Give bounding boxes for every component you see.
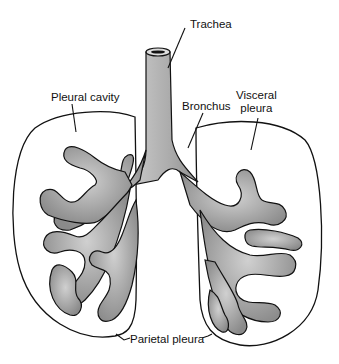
trachea-label: Trachea xyxy=(190,18,232,31)
left-lung-tree xyxy=(40,147,146,322)
pleural-cavity-label: Pleural cavity xyxy=(51,91,119,104)
visceral-pleura-line2: pleura xyxy=(236,102,277,115)
visceral-pleura-label: Visceral pleura xyxy=(236,89,277,115)
trachea-leader xyxy=(168,28,185,68)
lung-diagram xyxy=(0,0,339,364)
visceral-pleura-line1: Visceral xyxy=(236,89,277,102)
bronchus-label: Bronchus xyxy=(182,100,231,113)
parietal-pleura-leader-left xyxy=(116,334,130,340)
parietal-pleura-label: Parietal pleura xyxy=(130,333,204,346)
pleural-cavity-leader xyxy=(72,104,76,132)
visceral-pleura-leader xyxy=(251,118,258,150)
